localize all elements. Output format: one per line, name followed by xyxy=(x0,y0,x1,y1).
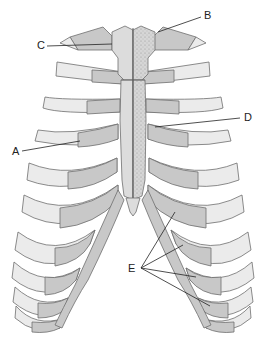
right-ribs xyxy=(142,27,254,333)
leader-line-d xyxy=(155,118,240,127)
label-b: B xyxy=(204,10,211,21)
thoracic-cage-diagram: A B C D E xyxy=(0,0,266,347)
rib-cage-illustration xyxy=(0,0,266,347)
leader-line-b xyxy=(158,17,201,32)
label-d: D xyxy=(244,112,252,123)
label-c: C xyxy=(37,40,45,51)
label-a: A xyxy=(12,146,19,157)
left-ribs xyxy=(12,27,124,333)
label-e: E xyxy=(128,263,135,274)
